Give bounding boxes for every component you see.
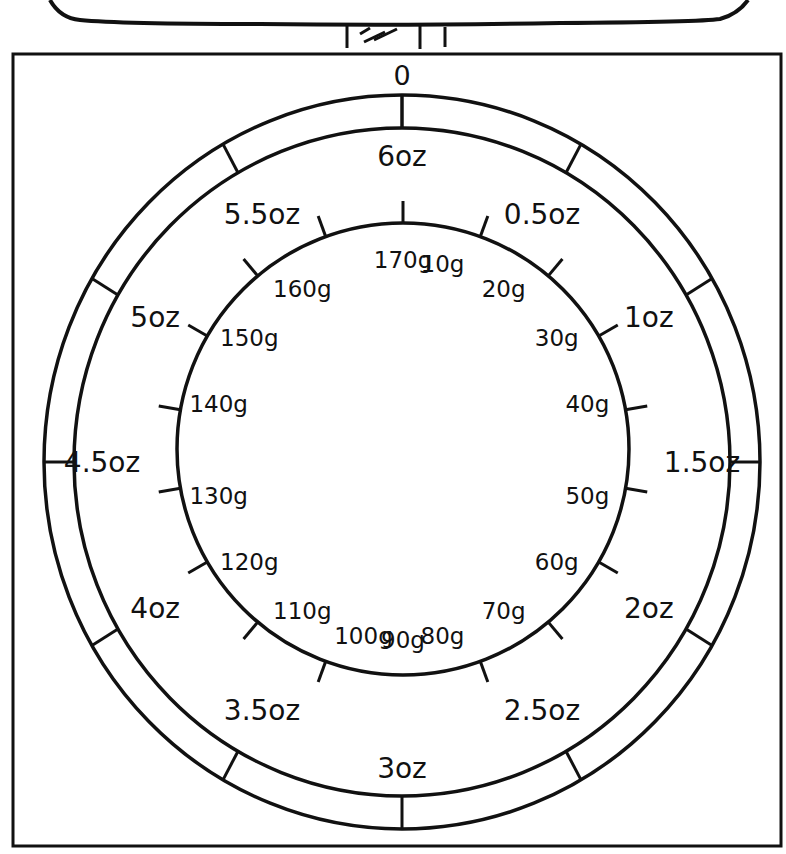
gram-label: 140g	[189, 391, 248, 417]
ounce-tick	[686, 279, 712, 296]
ounce-labels: 6oz0.5oz1oz1.5oz2oz2.5oz3oz3.5oz4oz4.5oz…	[64, 140, 740, 785]
gram-label: 60g	[535, 549, 579, 575]
gram-tick	[244, 622, 258, 639]
ounce-label: 6oz	[377, 140, 427, 173]
gram-label: 70g	[482, 598, 526, 624]
gram-tick	[159, 488, 181, 492]
gram-tick	[188, 562, 207, 573]
ounce-label: 1oz	[624, 301, 674, 334]
gram-label: 110g	[273, 598, 332, 624]
gram-tick	[599, 325, 618, 336]
middle-ring	[74, 128, 730, 796]
gram-labels: 170g10g20g30g40g50g60g70g80g90g100g110g1…	[189, 247, 609, 653]
gram-tick	[159, 406, 181, 410]
ounce-label: 0.5oz	[504, 198, 580, 231]
gram-label: 40g	[565, 391, 609, 417]
gram-label: 30g	[535, 325, 579, 351]
gram-tick	[188, 325, 207, 336]
scale-pan-outline	[50, 0, 748, 25]
gram-label: 10g	[421, 251, 465, 277]
ounce-tick	[223, 751, 238, 780]
ounce-label: 4oz	[130, 592, 180, 625]
ounce-label: 1.5oz	[664, 446, 740, 479]
inner-gram-ring	[177, 223, 629, 675]
gram-tick	[548, 622, 562, 639]
ounce-label: 3oz	[377, 752, 427, 785]
ounce-tick	[566, 144, 581, 173]
gram-tick	[244, 259, 258, 276]
gram-tick	[599, 562, 618, 573]
ounce-label: 2oz	[624, 592, 674, 625]
gram-label: 150g	[220, 325, 279, 351]
ounce-label: 5.5oz	[224, 198, 300, 231]
gram-label: 50g	[565, 483, 609, 509]
gram-tick	[626, 488, 648, 492]
gram-tick	[318, 661, 326, 682]
scale-diagram: 0 6oz0.5oz1oz1.5oz2oz2.5oz3oz3.5oz4oz4.5…	[0, 0, 786, 854]
gram-label: 100g	[334, 623, 393, 649]
ounce-label: 4.5oz	[64, 446, 140, 479]
ounce-tick	[566, 751, 581, 780]
ounce-label: 3.5oz	[224, 694, 300, 727]
gram-label: 20g	[482, 276, 526, 302]
gram-tick	[548, 259, 562, 276]
gram-label: 130g	[189, 483, 248, 509]
scale-dial-svg: 0 6oz0.5oz1oz1.5oz2oz2.5oz3oz3.5oz4oz4.5…	[0, 0, 786, 854]
gram-ticks	[159, 201, 647, 682]
gram-tick	[480, 216, 488, 237]
scale-stem	[347, 25, 445, 49]
gram-tick	[626, 406, 648, 410]
ounce-tick	[223, 144, 238, 173]
gram-label: 160g	[273, 276, 332, 302]
ounce-tick	[686, 629, 712, 646]
ounce-label: 5oz	[130, 301, 180, 334]
gram-label: 80g	[421, 623, 465, 649]
gram-tick	[318, 216, 326, 237]
zero-label: 0	[393, 60, 410, 91]
ounce-label: 2.5oz	[504, 694, 580, 727]
ounce-tick	[92, 629, 118, 646]
gram-label: 120g	[220, 549, 279, 575]
gram-tick	[480, 661, 488, 682]
ounce-tick	[92, 279, 118, 296]
